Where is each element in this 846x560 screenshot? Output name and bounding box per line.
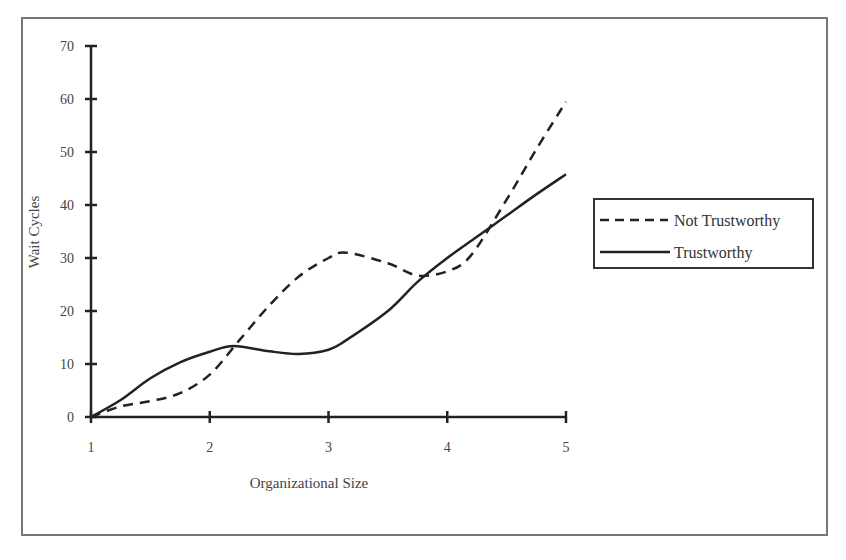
x-axis-title: Organizational Size [250, 475, 369, 491]
legend: Not Trustworthy Trustworthy [594, 199, 813, 268]
x-tick-label: 2 [206, 440, 213, 455]
x-tick-label: 5 [563, 440, 570, 455]
y-tick-label: 70 [60, 39, 74, 54]
legend-label-trustworthy: Trustworthy [674, 244, 753, 262]
y-tick-label: 60 [60, 92, 74, 107]
series-layer [91, 102, 566, 418]
y-tick-label: 50 [60, 145, 74, 160]
series-line-trustworthy [91, 174, 566, 417]
legend-label-not-trustworthy: Not Trustworthy [674, 212, 780, 230]
x-tick-label: 4 [444, 440, 451, 455]
chart: 01020304050607012345 Organizational Size… [0, 0, 846, 560]
x-tick-label: 3 [325, 440, 332, 455]
axes: 01020304050607012345 [60, 39, 570, 455]
series-line-not-trustworthy [91, 102, 566, 417]
y-axis-title: Wait Cycles [26, 196, 42, 269]
y-tick-label: 10 [60, 357, 74, 372]
y-tick-label: 20 [60, 304, 74, 319]
y-tick-label: 40 [60, 198, 74, 213]
y-tick-label: 0 [67, 410, 74, 425]
x-tick-label: 1 [88, 440, 95, 455]
y-tick-label: 30 [60, 251, 74, 266]
